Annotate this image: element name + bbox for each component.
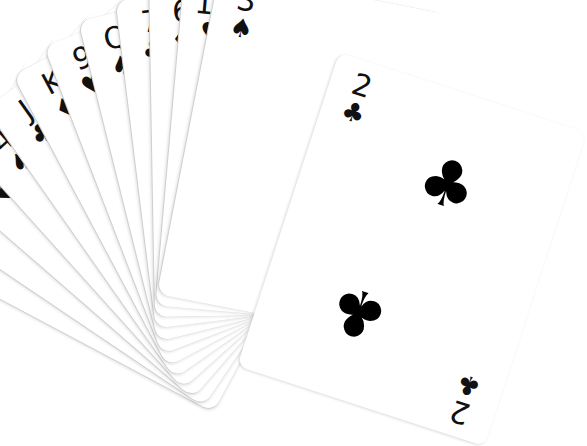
club-pip-icon: ♣ [410, 145, 484, 224]
club-pip-icon: ♣ [321, 274, 395, 353]
